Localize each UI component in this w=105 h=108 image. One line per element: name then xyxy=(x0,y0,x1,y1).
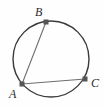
point-marker-a xyxy=(20,82,25,87)
vertex-label-b: B xyxy=(35,6,42,18)
geometry-figure: A B C xyxy=(0,0,105,108)
point-marker-b xyxy=(44,20,49,25)
vertex-label-a: A xyxy=(9,88,16,100)
vertex-label-c: C xyxy=(91,77,99,89)
chord-ac-segment xyxy=(22,79,85,84)
point-marker-c xyxy=(83,77,88,82)
